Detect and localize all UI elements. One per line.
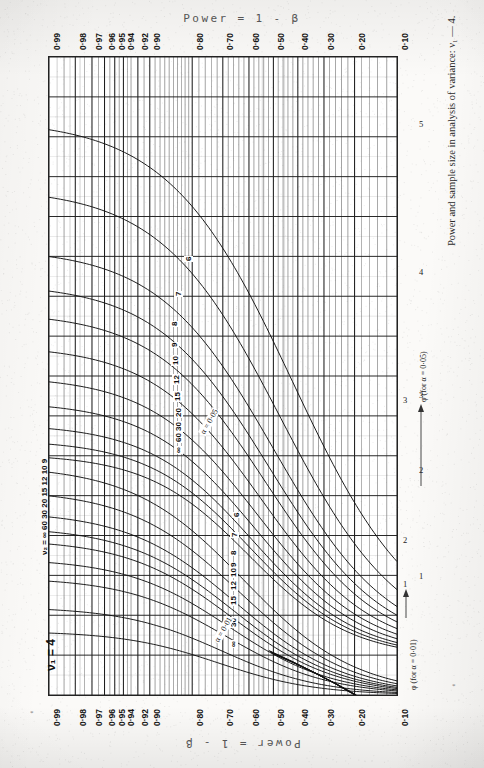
phi01-tick-2: 2 xyxy=(403,535,407,545)
curve-label-a01-8: 8 xyxy=(229,550,238,556)
curve-label-a01-∞: ∞ xyxy=(229,640,238,648)
power-tick-0p1: 0·10 xyxy=(400,709,410,726)
power-tick-0p3: 0·30 xyxy=(326,33,336,50)
chart-title-bottom: Power = 1 - β xyxy=(0,737,484,750)
phi01-arrow-icon xyxy=(399,586,413,620)
curve-label-a01-10: 10 xyxy=(229,567,238,578)
chart-title-top: Power = 1 - β xyxy=(0,12,484,25)
curve-label-a01-12: 12 xyxy=(229,580,238,591)
power-tick-0p3: 0·30 xyxy=(326,709,336,726)
power-tick-0p7: 0·70 xyxy=(225,709,235,726)
power-chart-plot-area xyxy=(48,56,398,696)
curve-label-a05-60: 60 xyxy=(174,432,183,443)
curve-label-a05-6: 6 xyxy=(184,256,193,262)
curve-label-a05-10: 10 xyxy=(171,355,180,366)
power-tick-0p2: 0·20 xyxy=(357,709,367,726)
power-tick-0p4: 0·40 xyxy=(300,709,310,726)
power-tick-0p99: 0·99 xyxy=(52,33,62,50)
nu2-series-label: ν₂ = ∞ 60 30 20 15 12 10 9 xyxy=(40,458,49,556)
power-tick-0p94: 0·94 xyxy=(126,33,136,50)
curve-label-a05-∞: ∞ xyxy=(174,446,183,454)
curve-label-a05-15: 15 xyxy=(173,391,182,402)
curve-label-a05-20: 20 xyxy=(174,407,183,418)
power-tick-0p5: 0·50 xyxy=(276,709,286,726)
power-tick-0p4: 0·40 xyxy=(300,33,310,50)
power-tick-0p96: 0·96 xyxy=(107,709,117,726)
curve-label-a05-30: 30 xyxy=(174,421,183,432)
power-tick-0p8: 0·80 xyxy=(195,33,205,50)
curve-label-a05-8: 8 xyxy=(170,321,179,327)
power-tick-0p97: 0·97 xyxy=(94,709,104,726)
phi05-axis-label: φ (for α = 0·05) xyxy=(419,351,428,402)
power-tick-0p2: 0·20 xyxy=(357,33,367,50)
power-tick-0p9: 0·90 xyxy=(152,709,162,726)
power-tick-0p97: 0·97 xyxy=(94,33,104,50)
curve-label-a05-7: 7 xyxy=(174,291,183,297)
power-tick-0p92: 0·92 xyxy=(140,33,150,50)
curve-label-a01-15: 15 xyxy=(229,595,238,606)
power-curves xyxy=(49,57,397,695)
power-tick-0p98: 0·98 xyxy=(78,709,88,726)
curve-label-a05-12: 12 xyxy=(172,374,181,385)
power-tick-0p9: 0·90 xyxy=(152,33,162,50)
figure-caption: Power and sample size in analysis of var… xyxy=(446,16,457,246)
page-mark-left: * xyxy=(30,709,34,717)
power-tick-0p5: 0·50 xyxy=(276,33,286,50)
curve-label-a01-6: 6 xyxy=(232,512,241,518)
phi01-tick-3: 3 xyxy=(403,395,407,405)
phi05-tick-4: 4 xyxy=(419,267,423,277)
power-tick-0p7: 0·70 xyxy=(225,33,235,50)
phi05-tick-5: 5 xyxy=(419,119,423,129)
curve-label-a01-7: 7 xyxy=(230,532,239,538)
power-tick-0p98: 0·98 xyxy=(78,33,88,50)
nu1-label: ν₁ = 4 xyxy=(44,638,58,672)
power-tick-0p96: 0·96 xyxy=(107,33,117,50)
phi05-arrow-icon xyxy=(414,400,428,490)
power-tick-0p94: 0·94 xyxy=(126,709,136,726)
phi01-axis-label: φ (for α = 0·01) xyxy=(409,639,418,690)
power-tick-0p92: 0·92 xyxy=(140,709,150,726)
power-tick-0p6: 0·60 xyxy=(251,709,261,726)
page-mark-right: * xyxy=(452,682,456,690)
power-tick-0p8: 0·80 xyxy=(195,709,205,726)
phi05-tick-1: 1 xyxy=(419,571,423,581)
power-tick-0p99: 0·99 xyxy=(52,709,62,726)
power-tick-0p6: 0·60 xyxy=(251,33,261,50)
curve-label-a05-9: 9 xyxy=(170,342,179,348)
power-tick-0p1: 0·10 xyxy=(400,33,410,50)
